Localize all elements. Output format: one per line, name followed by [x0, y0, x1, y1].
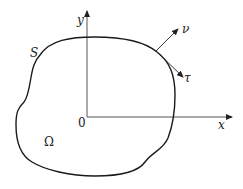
tangent-vector-arrow — [156, 51, 183, 77]
boundary-curve-s — [16, 37, 175, 176]
region-label: Ω — [44, 135, 54, 149]
normal-vector-arrow — [156, 29, 178, 51]
normal-vector-label: ν — [182, 22, 189, 36]
x-axis-label: x — [218, 118, 225, 132]
origin-label: 0 — [78, 116, 86, 130]
boundary-label: S — [30, 46, 38, 60]
domain-diagram: y x 0 S Ω ν τ — [0, 0, 243, 189]
tangent-vector-label: τ — [184, 71, 191, 85]
y-axis-label: y — [76, 13, 84, 27]
